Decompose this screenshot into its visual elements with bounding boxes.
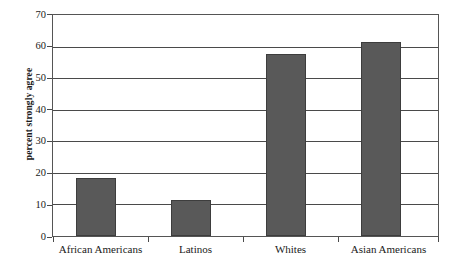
x-tick-mark-2: [243, 237, 244, 242]
bar-whites: [266, 54, 306, 236]
x-tick-mark-1: [148, 237, 149, 242]
plot-area: [52, 14, 439, 237]
bar-chart: percent strongly agree 70 60 50 40 30 20…: [0, 0, 450, 268]
x-tick-mark-0: [53, 237, 54, 242]
y-tick-label-50: 50: [20, 72, 46, 83]
bar-african-americans: [76, 178, 116, 236]
x-axis-label-whites: Whites: [243, 243, 338, 256]
x-tick-mark-4: [438, 237, 439, 242]
x-axis-label-african-americans: African Americans: [53, 243, 148, 256]
x-axis-label-latinos: Latinos: [148, 243, 243, 256]
y-tick-mark-0: [47, 237, 52, 238]
y-tick-label-60: 60: [20, 40, 46, 51]
bar-latinos: [171, 200, 211, 236]
y-tick-label-20: 20: [20, 167, 46, 178]
y-tick-label-30: 30: [20, 135, 46, 146]
y-tick-label-0: 0: [20, 231, 46, 242]
y-tick-label-10: 10: [20, 199, 46, 210]
x-tick-mark-3: [338, 237, 339, 242]
bar-asian-americans: [361, 42, 401, 236]
y-tick-label-70: 70: [20, 9, 46, 20]
y-tick-label-40: 40: [20, 104, 46, 115]
x-axis-label-asian-americans: Asian Americans: [338, 243, 439, 256]
